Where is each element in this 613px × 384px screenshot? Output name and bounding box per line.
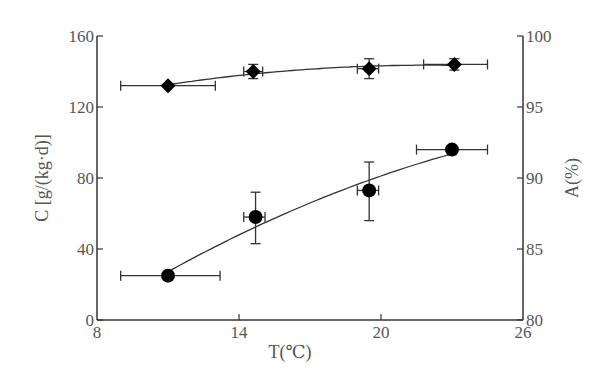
ticks xyxy=(97,36,523,320)
right-y-axis-title: A(%) xyxy=(562,158,583,198)
chart-canvas: 81420260408012016080859095100 T(℃) C [g/… xyxy=(0,0,613,384)
left-y-tick-label: 160 xyxy=(69,27,95,46)
x-axis-title: T(℃) xyxy=(268,342,311,363)
diamond-marker-icon xyxy=(362,61,377,76)
circle-marker-icon xyxy=(249,210,263,224)
tick-labels: 81420260408012016080859095100 xyxy=(69,27,552,342)
right-y-tick-label: 80 xyxy=(526,311,543,330)
right-y-tick-label: 100 xyxy=(526,27,552,46)
x-tick-label: 14 xyxy=(231,323,249,342)
circle-marker-icon xyxy=(161,269,175,283)
left-y-axis-title: C [g/(kg·d)] xyxy=(32,134,53,221)
left-y-tick-label: 0 xyxy=(86,311,95,330)
circle-marker-icon xyxy=(362,183,376,197)
error-bars xyxy=(121,59,488,281)
axes xyxy=(97,36,523,320)
diamond-marker-icon xyxy=(161,78,176,93)
left-y-tick-label: 80 xyxy=(77,169,94,188)
x-tick-label: 20 xyxy=(373,323,390,342)
left-y-tick-label: 40 xyxy=(77,240,94,259)
left-y-tick-label: 120 xyxy=(69,98,95,117)
diamond-fit-curve xyxy=(168,65,454,85)
right-y-tick-label: 95 xyxy=(526,98,543,117)
right-y-tick-label: 85 xyxy=(526,240,543,259)
circle-fit-curve xyxy=(168,154,452,272)
fit-curves xyxy=(168,65,454,272)
diamond-marker-icon xyxy=(246,64,261,79)
circle-marker-icon xyxy=(445,143,459,157)
diamond-marker-icon xyxy=(447,57,462,72)
markers xyxy=(161,57,462,283)
x-tick-label: 8 xyxy=(93,323,102,342)
right-y-tick-label: 90 xyxy=(526,169,543,188)
